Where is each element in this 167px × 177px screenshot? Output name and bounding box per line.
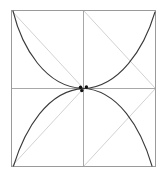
intersection-dot-right (85, 85, 88, 88)
diagram-canvas: Square with crossing arcs and diagonal c… (0, 0, 167, 177)
intersection-dot-left (79, 86, 82, 89)
geometric-figure-svg (0, 0, 167, 177)
intersection-dot-lower (80, 89, 83, 92)
